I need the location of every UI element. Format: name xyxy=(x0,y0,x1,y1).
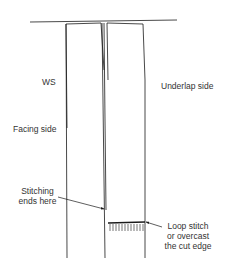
stitching-arrow xyxy=(58,197,104,209)
underlap-side-label: Underlap side xyxy=(161,81,213,91)
facing-side-label: Facing side xyxy=(13,124,56,134)
stitching-line2: ends here xyxy=(15,196,60,206)
loop-line3: the cut edge xyxy=(163,241,213,251)
left-panel-outline xyxy=(66,23,101,128)
stitching-line1: Stitching xyxy=(15,186,60,196)
loop-stitch-arrow xyxy=(146,222,162,227)
loop-line2: or overcast xyxy=(163,231,213,241)
cut-edge xyxy=(108,222,145,223)
loop-stitches xyxy=(110,224,143,231)
loop-stitch-label: Loop stitch or overcast the cut edge xyxy=(163,221,213,251)
top-edge-line xyxy=(30,20,177,22)
loop-line1: Loop stitch xyxy=(163,221,213,231)
stitching-ends-label: Stitching ends here xyxy=(15,186,60,206)
right-panel-outline xyxy=(107,23,145,222)
ws-label: WS xyxy=(42,77,56,87)
